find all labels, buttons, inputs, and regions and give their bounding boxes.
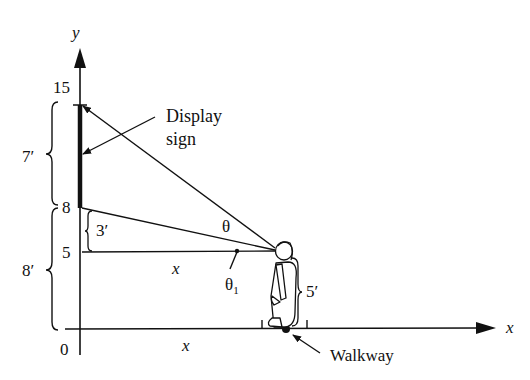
person-foot (268, 318, 282, 327)
theta1-marker (235, 249, 239, 253)
display-sign-label-line2: sign (166, 129, 196, 149)
theta1-subscript: 1 (233, 284, 239, 296)
display-sign-label-line1: Display (166, 106, 222, 126)
sight-line-top (83, 106, 275, 248)
sight-line-bottom (82, 208, 275, 250)
eye-to-sign-label: 3′ (96, 221, 108, 240)
walkway-pointer (293, 335, 320, 353)
brace-3ft (85, 211, 92, 251)
brace-7ft (46, 102, 58, 205)
theta-label: θ (222, 217, 230, 236)
theta1-label: θ1 (225, 275, 239, 296)
y-tick-15: 15 (53, 78, 70, 97)
x-axis-arrow-icon (476, 322, 496, 334)
y-tick-8: 8 (62, 198, 71, 217)
theta1-pointer (230, 252, 237, 269)
x-axis-label: x (505, 318, 514, 337)
brace-8ft (46, 208, 58, 330)
display-sign-pointer (83, 117, 155, 154)
sign-height-label: 7′ (22, 147, 34, 166)
sign-bottom-height-label: 8′ (22, 261, 34, 280)
distance-label-upper: x (171, 259, 180, 278)
eye-level-line (82, 251, 275, 252)
y-tick-5: 5 (62, 243, 71, 262)
sign-viewing-diagram: y x 0 15 8 5 7′ 8′ 3′ 5′ x x θ θ1 Displa… (0, 0, 530, 380)
eye-height-label: 5′ (306, 282, 318, 301)
y-axis-label: y (70, 23, 80, 42)
person-figure (268, 242, 296, 327)
origin-label: 0 (60, 340, 69, 359)
distance-label-lower: x (181, 336, 190, 355)
walkway-label: Walkway (330, 346, 394, 365)
person-head (276, 242, 293, 260)
y-axis-arrow-icon (74, 48, 86, 68)
theta1-symbol: θ (225, 275, 233, 294)
